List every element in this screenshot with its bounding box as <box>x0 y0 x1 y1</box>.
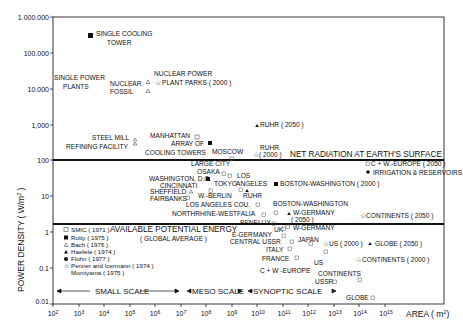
point-label: RUHR ( 2050 ) <box>260 121 304 129</box>
point-label: LARGE CITY <box>191 160 231 167</box>
open-triangle-icon <box>64 243 68 247</box>
point-label: RUHR <box>260 144 279 151</box>
x-tick-label: 106 <box>150 309 161 318</box>
y-axis-title: POWER DENSITY ( W/m2 ) <box>16 187 26 292</box>
point-label: US ( 2000 ) <box>329 240 363 248</box>
y-tick-label: 1,000 <box>31 122 49 129</box>
open-square-icon <box>282 234 286 238</box>
point-label: NORTHRHINE-WESTFALIA <box>172 210 256 217</box>
y-tick-label: 1.000.000 <box>18 14 49 21</box>
filled-square-icon <box>206 177 210 181</box>
point-label: OSAKA <box>197 168 220 175</box>
point-label: FOSSIL <box>110 88 134 95</box>
x-tick-label: 1014 <box>353 309 367 318</box>
point-label: FRANCE <box>262 255 290 262</box>
point-label: MANHATTAN <box>150 132 190 139</box>
legend-item: Momiyama ( 1975 ) <box>71 269 124 276</box>
small-scale-label: SMALL SCALE <box>95 287 149 296</box>
open-square-icon <box>262 213 266 217</box>
point-label: ARRAY OF <box>171 140 204 147</box>
point-label: CONTINENTS ( 2050 ) <box>366 212 433 220</box>
point-label: US <box>314 259 324 266</box>
point-label: MOSCOW <box>212 148 244 155</box>
net-radiation-label: NET RADIATION AT EARTH'S SURFACE <box>290 150 442 159</box>
point-label: ( 2000 ) <box>259 151 282 159</box>
point-label: STEEL MILL <box>92 134 129 141</box>
y-tick-label: 0.1 <box>39 265 49 272</box>
open-star-icon: ☆ <box>155 79 161 86</box>
legend-item: Penner and Icermann ( 1974 ) <box>71 262 154 269</box>
open-star-icon: ☆ <box>64 262 69 269</box>
x-tick-labels: 102 103 104 105 106 107 108 109 1010 101… <box>48 309 393 318</box>
y-tick-label: 10 <box>41 193 49 200</box>
point-label: W-GERMANY <box>293 224 335 231</box>
open-square-icon <box>295 256 299 260</box>
y-tick-label: 0.01 <box>35 298 49 305</box>
y-tick-label: 1 <box>45 229 49 236</box>
filled-triangle-icon <box>64 250 68 254</box>
point-label: FAIRBANKS <box>150 195 188 202</box>
point-label: C + W.-EUROPE ( 2050 ) <box>371 160 446 168</box>
point-label: ITALY <box>266 246 284 253</box>
open-square-icon <box>195 135 199 139</box>
x-tick-label: 1012 <box>302 309 316 318</box>
open-square-icon <box>228 174 232 178</box>
point-label: CENTRAL USSR <box>230 238 281 245</box>
x-tick-label: 105 <box>125 309 136 318</box>
open-triangle-icon <box>189 190 193 193</box>
x-tick-label: 103 <box>74 309 85 318</box>
point-label: W.-BERLIN <box>198 192 232 199</box>
point-label: CONTINENTS ( 2000 ) <box>362 256 429 264</box>
point-label: PLANTS <box>63 83 89 90</box>
open-square-icon <box>274 211 278 215</box>
filled-square-icon <box>64 236 68 240</box>
point-label: NUCLEAR POWER <box>154 70 212 77</box>
available-pe-label: AVAILABLE POTENTIAL ENERGY <box>110 225 238 234</box>
point-label: SINGLE POWER <box>54 74 105 81</box>
filled-square-icon <box>208 141 212 145</box>
open-triangle-icon <box>133 138 137 141</box>
open-square-icon <box>324 250 328 254</box>
point-label: NUCLEAR <box>110 80 142 87</box>
x-tick-label: 109 <box>227 309 238 318</box>
filled-triangle-icon <box>255 124 259 127</box>
x-tick-label: 1015 <box>379 309 393 318</box>
point-label: PLANT PARKS ( 2000 ) <box>162 79 231 87</box>
x-tick-label: 1013 <box>328 309 342 318</box>
meso-scale-label: MESO SCALE <box>192 287 244 296</box>
y-tick-label: 100 <box>37 157 49 164</box>
x-tick-label: 104 <box>99 309 110 318</box>
point-label: E-GERMANY <box>232 231 273 238</box>
point-label: SHEFFIELD <box>150 188 187 195</box>
x-tick-label: 1011 <box>278 309 291 318</box>
point-label: GLOBE ( 2050 ) <box>375 240 422 248</box>
point-label: RUHR <box>243 192 262 199</box>
legend-item: Flohn ( 1977 ) <box>71 255 110 262</box>
x-tick-label: 1010 <box>251 309 265 318</box>
open-square-icon <box>358 278 362 282</box>
open-square-icon <box>64 228 68 232</box>
open-triangle-icon <box>133 142 137 145</box>
data-points: SINGLE COOLING TOWER SINGLE POWER PLANTS… <box>54 30 463 301</box>
filled-square-icon <box>274 182 278 186</box>
x-tick-label: 108 <box>201 309 212 318</box>
point-label: C + W -EUROPE <box>260 267 311 274</box>
open-square-icon <box>286 225 290 229</box>
x-axis-title: AREA ( m2) <box>406 309 449 319</box>
point-label: JAPAN <box>298 236 319 243</box>
open-square-icon <box>333 280 337 284</box>
point-label: WASHINGTON, D.C. <box>149 175 211 182</box>
point-label: ANGELES <box>236 180 268 187</box>
open-square-icon <box>239 188 243 192</box>
open-square-icon <box>256 203 260 207</box>
power-density-chart: 1.000.000 100.000 10.000 1,000 100 10 1 … <box>0 0 463 324</box>
point-label: LOS ANGELES COU. <box>186 201 250 208</box>
filled-circle-icon <box>366 170 370 174</box>
x-tick-label: 107 <box>176 309 187 318</box>
point-label: BOSTON-WASHINGTON ( 2000 ) <box>280 180 380 188</box>
y-tick-label: 10.000 <box>28 86 50 93</box>
point-label: LOS <box>237 172 251 179</box>
global-average-label: ( GLOBAL AVERAGE ) <box>140 235 207 243</box>
open-square-icon <box>290 240 294 244</box>
open-triangle-icon <box>146 80 150 84</box>
